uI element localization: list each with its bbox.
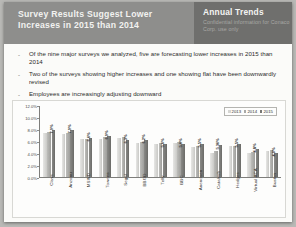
bar: 6.3% bbox=[126, 140, 130, 177]
bar bbox=[229, 146, 233, 177]
y-axis-tick-label: 8.0% bbox=[27, 128, 37, 133]
bar bbox=[85, 139, 89, 177]
y-axis-tick bbox=[37, 106, 39, 107]
y-axis-tick bbox=[37, 130, 39, 131]
bar-group: 5.6% bbox=[170, 106, 189, 177]
bar-groups: 7.9%7.9%6.6%6.9%6.3%6.2%5.6%5.6%5.5%5.36… bbox=[40, 106, 281, 177]
bar bbox=[47, 132, 51, 177]
list-item: - Employees are increasingly adjusting d… bbox=[18, 90, 282, 99]
bar-value-label: 5.6% bbox=[160, 138, 165, 147]
bar bbox=[159, 143, 163, 177]
x-axis-tick-label: Telly bbox=[151, 179, 170, 217]
x-axis-tick-label: Clays bbox=[40, 179, 59, 217]
x-axis-tick-label: MSWD bbox=[77, 179, 96, 217]
y-axis-tick bbox=[37, 178, 39, 179]
bar bbox=[66, 133, 70, 177]
x-axis-tick-label: Buston bbox=[262, 179, 281, 217]
x-axis-tick-label: BBGD bbox=[133, 179, 152, 217]
confidential-notice: Confidential information for Conaco Corp… bbox=[203, 19, 292, 32]
bar-group: 7.9% bbox=[40, 106, 59, 177]
bar-group: 5.6% bbox=[151, 106, 170, 177]
bar bbox=[191, 147, 195, 177]
x-axis-tick-label: Hedges bbox=[225, 179, 244, 217]
bar bbox=[99, 139, 103, 177]
bar bbox=[266, 151, 270, 177]
bullet-marker-icon: - bbox=[18, 70, 29, 85]
y-axis-tick-label: 4.0% bbox=[27, 152, 37, 157]
x-axis-tick-label: Anzonu bbox=[59, 179, 78, 217]
section-title: Annual Trends bbox=[203, 7, 292, 17]
bar bbox=[117, 138, 121, 177]
list-item: - Of the nine major surveys we analyzed,… bbox=[18, 50, 282, 65]
bar: 7.9% bbox=[70, 130, 74, 177]
bullet-text: Of the nine major surveys we analyzed, f… bbox=[29, 50, 282, 65]
header-section-block: Annual Trends Confidential information f… bbox=[194, 2, 292, 44]
bar-group: 4.0% bbox=[262, 106, 281, 177]
y-axis-tick bbox=[37, 142, 39, 143]
bar-value-label: 5.6% bbox=[178, 138, 183, 147]
bar bbox=[173, 143, 177, 177]
header-title-block: Survey Results Suggest Lower Increases i… bbox=[4, 2, 194, 44]
bar bbox=[154, 144, 158, 177]
y-axis-tick bbox=[37, 118, 39, 119]
x-axis-tick-label: Anenosen bbox=[188, 179, 207, 217]
y-axis-tick bbox=[37, 166, 39, 167]
bar-group: 6.3% bbox=[114, 106, 133, 177]
x-axis-tick-label: Towens bbox=[96, 179, 115, 217]
chart-plot-area: 12.0%10.0%8.0%6.0%4.0%2.0%0.0% 7.9%7.9%6… bbox=[39, 106, 281, 178]
bar bbox=[80, 139, 84, 177]
bullet-marker-icon: - bbox=[18, 50, 29, 65]
bar bbox=[140, 142, 144, 178]
x-axis-labels: ClaysAnzonuMSWDTowensSegalBBGDTellyBBCAn… bbox=[40, 179, 281, 217]
bar-group: 6.6% bbox=[77, 106, 96, 177]
x-axis-tick-label: BBC bbox=[170, 179, 189, 217]
bar: 5.6% bbox=[163, 144, 167, 177]
bar-group: 5.36% bbox=[207, 106, 226, 177]
presentation-slide: Survey Results Suggest Lower Increases i… bbox=[4, 2, 292, 222]
bar-value-label: 4.8% bbox=[252, 143, 257, 152]
bar-value-label: 7.9% bbox=[67, 125, 72, 134]
y-axis-tick bbox=[37, 154, 39, 155]
bar: 6.6% bbox=[89, 138, 93, 177]
bar-value-label: 7.9% bbox=[49, 125, 54, 134]
bar bbox=[136, 143, 140, 177]
bar bbox=[210, 153, 214, 177]
bar-group: 5.5% bbox=[225, 106, 244, 177]
bar-value-label: 5.5% bbox=[234, 139, 239, 148]
y-axis-tick-label: 2.0% bbox=[27, 164, 37, 169]
bar-group: 7.9% bbox=[59, 106, 78, 177]
bar-value-label: 4.0% bbox=[271, 148, 276, 157]
bar-value-label: 5.36% bbox=[215, 139, 220, 150]
bar-group: 4.8% bbox=[244, 106, 263, 177]
chart-container: 201320142015 12.0%10.0%8.0%6.0%4.0%2.0%0… bbox=[12, 100, 286, 218]
x-axis-tick-label: Virtual ACA bbox=[244, 179, 263, 217]
bar: 7.9% bbox=[52, 130, 56, 177]
bar: 5.6% bbox=[181, 144, 185, 177]
bar bbox=[247, 153, 251, 177]
list-item: - Two of the surveys showing higher incr… bbox=[18, 70, 282, 85]
bar-value-label: 6.9% bbox=[104, 131, 109, 140]
bullet-marker-icon: - bbox=[18, 90, 29, 99]
x-axis-tick-label: Catalysb bbox=[207, 179, 226, 217]
bar-value-label: 6.3% bbox=[123, 134, 128, 143]
bar-group: 6.9% bbox=[96, 106, 115, 177]
bar-group: 6.2% bbox=[133, 106, 152, 177]
y-axis-tick-label: 6.0% bbox=[27, 140, 37, 145]
bullet-list: - Of the nine major surveys we analyzed,… bbox=[4, 46, 292, 104]
x-axis-tick-label: Segal bbox=[114, 179, 133, 217]
bar-value-label: 6.6% bbox=[86, 132, 91, 141]
y-axis-tick-label: 0.0% bbox=[27, 176, 37, 181]
bar bbox=[62, 134, 66, 177]
y-axis-tick-label: 10.0% bbox=[25, 116, 37, 121]
slide-header: Survey Results Suggest Lower Increases i… bbox=[4, 2, 292, 44]
bar-value-label: 6.2% bbox=[141, 135, 146, 144]
bullet-text: Two of the surveys showing higher increa… bbox=[29, 70, 282, 85]
page-title: Survey Results Suggest Lower Increases i… bbox=[18, 9, 194, 30]
bar: 6.2% bbox=[144, 140, 148, 177]
bar-group: 5.5% bbox=[188, 106, 207, 177]
bullet-text: Employees are increasingly adjusting dow… bbox=[29, 90, 282, 99]
bar bbox=[43, 133, 47, 177]
y-axis-tick-label: 12.0% bbox=[25, 104, 37, 109]
bar-value-label: 5.5% bbox=[197, 139, 202, 148]
